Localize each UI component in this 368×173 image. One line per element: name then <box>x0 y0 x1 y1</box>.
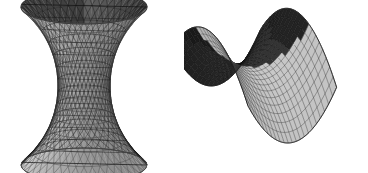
figure-panel <box>0 0 368 173</box>
hyperboloid-of-one-sheet-figure <box>0 0 184 173</box>
surface-facet <box>77 138 84 152</box>
surface-facet <box>84 87 88 99</box>
saddle-mesh <box>184 8 337 143</box>
hyperbolic-paraboloid-figure <box>184 0 368 173</box>
surface-facet <box>80 87 84 99</box>
saddle-canvas <box>184 0 368 173</box>
hyperboloid-mesh <box>21 0 147 173</box>
hyperboloid-canvas <box>0 0 184 173</box>
